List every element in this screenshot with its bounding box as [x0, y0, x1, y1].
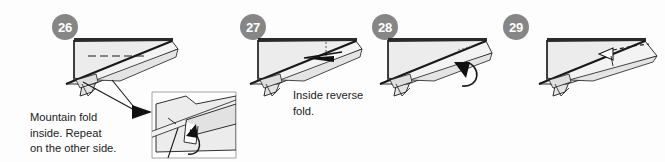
paper-body-29 — [539, 38, 657, 96]
panel-27-figure — [230, 0, 370, 162]
step-panel-27: 27 Inside reverse fold. — [230, 0, 370, 162]
step-panel-28: 28 — [362, 0, 502, 162]
paper-body-28 — [380, 38, 492, 96]
curved-hook-arrow-28 — [454, 62, 477, 86]
step-panel-29: 29 — [493, 0, 665, 162]
step-panel-26: 26 — [0, 0, 240, 162]
caption-26: Mountain fold inside. Repeat on the othe… — [30, 110, 160, 157]
diagram-sheet: 26 — [0, 0, 665, 162]
panel-28-figure — [362, 0, 502, 162]
panel-29-figure — [493, 0, 665, 162]
